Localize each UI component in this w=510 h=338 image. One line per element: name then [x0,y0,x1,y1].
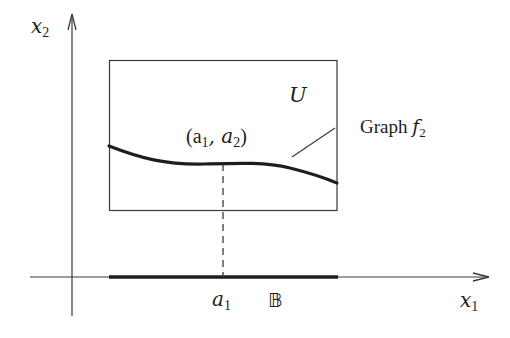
y-axis [68,14,76,316]
a1-tick-label: a1 [212,287,231,313]
region-u-label: U [289,83,308,107]
graph-label-leader-line [292,128,335,157]
graph-diagram: x2 x1 U (a1, a2) Graph f2 a1 𝔹 [0,0,510,338]
graph-f2-label: Graph f2 [360,115,426,140]
x-axis-label: x1 [460,288,478,314]
base-set-label: 𝔹 [268,288,283,312]
point-label: (a1, a2) [186,124,247,150]
y-axis-label: x2 [31,14,49,40]
